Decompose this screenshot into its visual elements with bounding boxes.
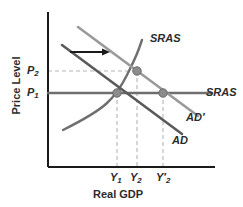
label-ad: AD bbox=[172, 135, 188, 146]
x-axis-title: Real GDP bbox=[93, 189, 143, 200]
y-tick-p1: P1 bbox=[27, 87, 39, 100]
x-tick-y2: Y2 bbox=[130, 172, 142, 185]
x-tick-y1-sub: 1 bbox=[117, 176, 121, 185]
economics-ad-sras-diagram: Price Level Real GDP P2 P1 Y1 Y2 Y′2 SRA… bbox=[0, 0, 243, 207]
label-ad-prime: AD′ bbox=[186, 112, 205, 123]
x-tick-y2-sub: 2 bbox=[137, 176, 141, 185]
label-sras-upward: SRAS bbox=[150, 33, 181, 44]
equilibrium-dot-y2prime-p1 bbox=[159, 89, 167, 97]
label-sras-horizontal: SRAS bbox=[206, 87, 237, 98]
label-ad-prime-base: AD bbox=[186, 111, 202, 123]
x-tick-y1: Y1 bbox=[110, 172, 122, 185]
equilibrium-dot-y1-p1 bbox=[113, 89, 121, 97]
equilibrium-dot-y2-p2 bbox=[133, 67, 141, 75]
y-tick-p2-sub: 2 bbox=[34, 69, 38, 78]
x-tick-y2p-sub: 2 bbox=[166, 176, 170, 185]
y-tick-p2: P2 bbox=[27, 65, 39, 78]
axes bbox=[48, 12, 215, 167]
y-tick-p1-sub: 1 bbox=[34, 91, 38, 100]
y-axis-title: Price Level bbox=[11, 46, 22, 126]
label-ad-prime-mark: ′ bbox=[202, 111, 205, 123]
x-tick-y2-prime: Y′2 bbox=[156, 172, 170, 185]
guide-lines bbox=[48, 71, 163, 167]
